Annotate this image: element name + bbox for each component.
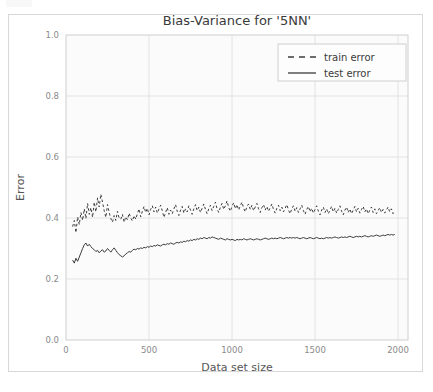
y-tick-label: 0.4 [45,213,59,223]
y-tick-label: 0.6 [45,152,59,162]
y-tick-label: 0.8 [45,91,59,101]
x-tick-label: 2000 [387,345,409,355]
chart-title: Bias-Variance for '5NN' [163,13,311,28]
x-tick-label: 1500 [304,345,326,355]
y-tick-label: 0.0 [45,335,59,345]
x-tick-label: 1000 [221,345,243,355]
figure-canvas: 0.00.20.40.60.81.00500100015002000Bias-V… [0,0,433,392]
y-axis-label: Error [14,174,27,201]
legend-label-test-error: test error [324,68,371,79]
x-tick-label: 0 [63,345,68,355]
y-tick-label: 1.0 [45,30,59,40]
legend-label-train-error: train error [324,52,376,63]
x-tick-label: 500 [141,345,157,355]
chart-svg: 0.00.20.40.60.81.00500100015002000Bias-V… [0,0,433,392]
x-axis-label: Data set size [201,361,273,374]
y-tick-label: 0.2 [45,274,59,284]
